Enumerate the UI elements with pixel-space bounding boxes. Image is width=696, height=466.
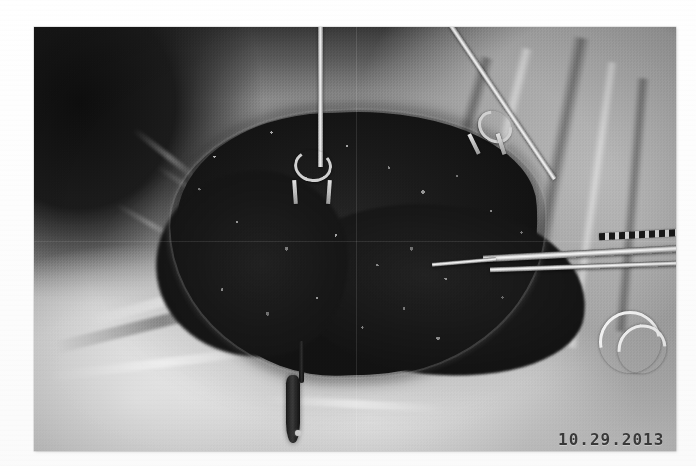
clinical-photograph: 10.29.2013 bbox=[34, 27, 676, 451]
film-grain-overlay bbox=[34, 27, 676, 451]
camera-date-stamp: 10.29.2013 bbox=[558, 430, 664, 449]
scan-page: 10.29.2013 bbox=[0, 0, 696, 466]
